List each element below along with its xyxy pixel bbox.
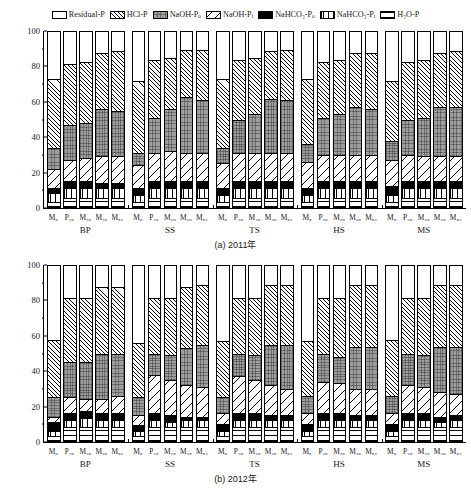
bar-segment-naoh_pi — [418, 387, 430, 413]
bar-segment-naoh_po — [249, 114, 261, 153]
stacked-bar[interactable] — [164, 31, 178, 208]
bar-segment-residual — [386, 32, 398, 81]
stacked-bar[interactable] — [216, 31, 230, 208]
stacked-bar[interactable] — [95, 31, 109, 208]
stacked-bar[interactable] — [95, 265, 109, 442]
stacked-bar[interactable] — [449, 31, 463, 208]
bar-segment-h2op — [386, 202, 398, 207]
bar-segment-h2op — [366, 427, 378, 441]
x-tick-label: M₅₂ — [364, 446, 378, 458]
bar-segment-naoh_po — [366, 347, 378, 389]
x-axis-group-labels-b: BPSSTSHSMS — [43, 458, 466, 471]
legend-item-h2op: H₂O-P — [380, 11, 419, 19]
legend-label-subscript: i — [252, 13, 253, 19]
stacked-bar[interactable] — [401, 31, 415, 208]
stacked-bar[interactable] — [63, 31, 77, 208]
stacked-bar[interactable] — [132, 31, 146, 208]
stacked-bar[interactable] — [449, 265, 463, 442]
stacked-bar[interactable] — [280, 31, 294, 208]
bar-segment-nahco3_po — [418, 181, 430, 188]
bar-segment-naoh_pi — [302, 162, 314, 188]
bar-segment-residual — [450, 266, 462, 285]
bar-segment-naoh_po — [217, 397, 229, 413]
stacked-bar[interactable] — [111, 31, 125, 208]
bar-segment-h2op — [366, 198, 378, 207]
bar-segment-h2op — [112, 198, 124, 207]
stacked-bar[interactable] — [385, 31, 399, 208]
stacked-bar[interactable] — [111, 265, 125, 442]
stacked-bar[interactable] — [333, 265, 347, 442]
stacked-bar[interactable] — [317, 265, 331, 442]
stacked-bar[interactable] — [79, 31, 93, 208]
bar-segment-nahco3_po — [318, 413, 330, 420]
stacked-bar[interactable] — [401, 265, 415, 442]
bar-segment-residual — [96, 266, 108, 287]
bar-group-ts — [213, 31, 297, 208]
stacked-bar[interactable] — [349, 265, 363, 442]
bar-segment-residual — [197, 32, 209, 50]
stacked-bar[interactable] — [248, 265, 262, 442]
stacked-bar[interactable] — [248, 31, 262, 208]
stacked-bar[interactable] — [264, 31, 278, 208]
stacked-bar[interactable] — [148, 265, 162, 442]
bar-segment-nahco3_pi — [386, 195, 398, 202]
stacked-bar[interactable] — [280, 265, 294, 442]
bar-segment-residual — [366, 32, 378, 53]
bar-segment-naoh_po — [48, 148, 60, 169]
stacked-bar[interactable] — [164, 265, 178, 442]
stacked-bar[interactable] — [349, 31, 363, 208]
bar-segment-naoh_po — [350, 107, 362, 154]
legend-swatch-naoh_pi-icon — [206, 11, 221, 19]
stacked-bar[interactable] — [301, 31, 315, 208]
stacked-bar[interactable] — [417, 31, 431, 208]
stacked-bar[interactable] — [301, 265, 315, 442]
x-tick-label: M₃₀ — [179, 212, 193, 224]
stacked-bar[interactable] — [196, 31, 210, 208]
bar-segment-naoh_pi — [149, 375, 161, 414]
stacked-bar[interactable] — [433, 31, 447, 208]
stacked-bar[interactable] — [180, 265, 194, 442]
bar-segment-naoh_pi — [386, 413, 398, 424]
x-tick-label: P₂₀ — [401, 446, 415, 458]
bar-segment-hclp — [96, 287, 108, 354]
stacked-bar[interactable] — [385, 265, 399, 442]
bar-segment-hclp — [402, 62, 414, 120]
bar-segment-h2op — [64, 427, 76, 441]
bar-segment-nahco3_pi — [366, 188, 378, 199]
bar-segment-residual — [181, 32, 193, 50]
stacked-bar[interactable] — [333, 31, 347, 208]
stacked-bar[interactable] — [216, 265, 230, 442]
legend-label-hclp: HCl-P — [127, 11, 148, 19]
x-tick-label: M₀ — [385, 212, 399, 224]
group-label-ms: MS — [381, 458, 466, 471]
bar-segment-nahco3_pi — [217, 195, 229, 202]
stacked-bar[interactable] — [365, 31, 379, 208]
stacked-bar[interactable] — [317, 31, 331, 208]
stacked-bar[interactable] — [47, 31, 61, 208]
stacked-bar[interactable] — [264, 265, 278, 442]
stacked-bar[interactable] — [232, 265, 246, 442]
bar-group-ms — [382, 265, 466, 442]
bar-segment-naoh_pi — [165, 151, 177, 181]
stacked-bar[interactable] — [232, 31, 246, 208]
stacked-bar[interactable] — [148, 31, 162, 208]
bar-segment-nahco3_po — [217, 188, 229, 195]
stacked-bar[interactable] — [196, 265, 210, 442]
bar-segment-naoh_pi — [434, 392, 446, 417]
stacked-bar[interactable] — [433, 265, 447, 442]
stacked-bar[interactable] — [417, 265, 431, 442]
bar-segment-naoh_pi — [133, 415, 145, 426]
stacked-bar[interactable] — [79, 265, 93, 442]
stacked-bar[interactable] — [132, 265, 146, 442]
bar-segment-h2op — [281, 427, 293, 441]
bar-segment-naoh_pi — [265, 385, 277, 415]
stacked-bar[interactable] — [180, 31, 194, 208]
stacked-bar[interactable] — [365, 265, 379, 442]
bar-segment-nahco3_pi — [334, 188, 346, 199]
bar-group-hs — [297, 265, 381, 442]
stacked-bar[interactable] — [47, 265, 61, 442]
stacked-bar[interactable] — [63, 265, 77, 442]
bar-segment-hclp — [450, 51, 462, 107]
x-tick-label: M₀ — [300, 446, 314, 458]
bar-segment-h2op — [334, 198, 346, 207]
